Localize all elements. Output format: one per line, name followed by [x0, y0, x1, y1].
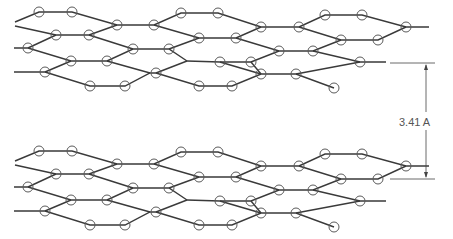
- graphite-layer-bottom: [14, 146, 429, 232]
- graphite-layer-top: [14, 7, 429, 93]
- graphite-diagram: [0, 0, 453, 239]
- interlayer-spacing-label: 3.41 A: [399, 116, 430, 128]
